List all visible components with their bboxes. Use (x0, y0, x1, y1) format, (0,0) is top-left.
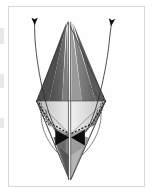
diagram-canvas (9, 7, 144, 186)
scan-artifact-2 (0, 74, 4, 88)
figure-panel (8, 6, 145, 187)
upper-body-facets (37, 23, 106, 101)
scan-artifact-1 (0, 28, 4, 44)
scan-artifact-3 (0, 118, 4, 128)
lower-body-facets (37, 101, 106, 179)
